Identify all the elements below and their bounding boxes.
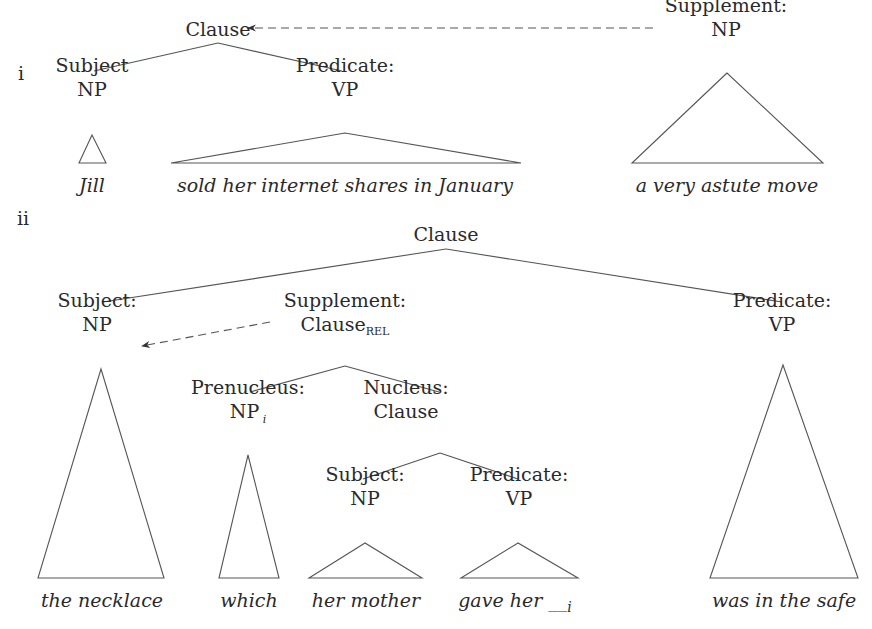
category-label: Clause [185,18,250,40]
node-i-subject: SubjectNP [56,54,129,100]
function-label: Nucleus: [363,376,448,398]
category-label: NP i [230,400,266,426]
function-label: Predicate: [733,289,832,311]
category-label: ClauseREL [301,313,390,338]
node-ii-nucleus-subject: Subject:NP [325,463,404,509]
node-i-clause: Clause [185,18,250,40]
terminal-string: Jill [75,174,105,196]
function-label: Predicate: [296,54,395,76]
category-label: Clause [413,223,478,245]
example-ii: iiClauseSubject:NPSupplement:ClauseRELPr… [17,207,858,615]
category-label: VP [505,487,533,509]
terminal-string: which [220,589,277,611]
terminal-string: gave her __i [458,589,572,615]
example-marker: i [18,62,24,84]
function-label: Predicate: [470,463,569,485]
node-ii-supplement: Supplement:ClauseREL [284,289,406,338]
constituent-triangle [710,365,858,578]
node-ii-clause: Clause [413,223,478,245]
terminal-string: sold her internet shares in January [177,174,513,196]
category-label: NP [711,18,741,40]
node-ii-subject: Subject:NP [57,289,136,335]
category-label: Clause [373,400,438,422]
constituent-triangle [219,455,279,578]
constituent-triangle [171,133,521,163]
example-i: iClauseSubjectNPPredicate:VPSupplement:N… [18,0,823,196]
tree-layer: iClauseSubjectNPPredicate:VPSupplement:N… [17,0,858,615]
constituent-triangle [632,73,823,163]
function-label: Subject: [57,289,136,311]
function-label: Supplement: [284,289,406,311]
node-ii-nucleus: Nucleus:Clause [363,376,448,422]
node-ii-prenucleus: Prenucleus:NP i [191,376,305,426]
example-marker: ii [17,207,29,229]
constituent-triangle [461,543,578,578]
terminal-string: a very astute move [636,174,819,196]
function-label: Subject [56,54,129,76]
syntax-tree-diagram: iClauseSubjectNPPredicate:VPSupplement:N… [0,0,872,629]
category-label: NP [82,313,112,335]
tree-canvas: iClauseSubjectNPPredicate:VPSupplement:N… [0,0,872,629]
constituent-triangle [38,369,164,578]
supplement-anchor-arrow [142,322,270,346]
terminal-string: was in the safe [712,589,856,611]
category-label: VP [768,313,796,335]
terminal-string: the necklace [41,589,163,611]
terminal-string: her mother [312,589,422,611]
node-ii-nucleus-predicate: Predicate:VP [470,463,569,509]
constituent-triangle [309,543,422,578]
constituent-triangle [79,135,106,163]
node-ii-predicate: Predicate:VP [733,289,832,335]
node-i-supplement: Supplement:NP [665,0,787,40]
node-i-predicate: Predicate:VP [296,54,395,100]
function-label: Prenucleus: [191,376,305,398]
category-label: NP [350,487,380,509]
category-label: VP [331,78,359,100]
function-label: Subject: [325,463,404,485]
category-label: NP [77,78,107,100]
function-label: Supplement: [665,0,787,16]
tree-branch [446,249,782,302]
